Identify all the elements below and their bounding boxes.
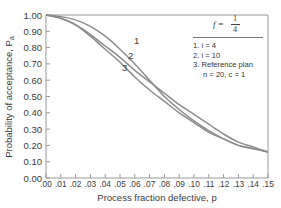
x-tick-label: .01 bbox=[55, 179, 67, 189]
legend-fraction: f = 1 4 bbox=[193, 14, 263, 36]
y-tick-label: 0.30 bbox=[24, 124, 43, 135]
x-axis-label: Process fraction defective, p bbox=[97, 192, 216, 203]
y-tick-label: 0.10 bbox=[24, 156, 43, 167]
x-tick-label: .11 bbox=[203, 179, 214, 189]
legend-divider bbox=[193, 37, 263, 38]
x-tick-label: .00 bbox=[40, 179, 52, 189]
x-tick-label: .03 bbox=[85, 179, 97, 189]
x-tick-label: .09 bbox=[173, 179, 185, 189]
x-tick-label: .08 bbox=[159, 179, 171, 189]
y-tick-label: 0.20 bbox=[24, 140, 43, 151]
y-tick-label: 0.40 bbox=[24, 107, 43, 118]
x-tick-label: .07 bbox=[144, 179, 156, 189]
legend-item-3: 3. Reference plan bbox=[193, 60, 263, 70]
x-tick-label: .04 bbox=[99, 179, 111, 189]
x-tick-label: .12 bbox=[218, 179, 230, 189]
x-tick-label: .10 bbox=[188, 179, 200, 189]
y-tick-label: 0.50 bbox=[24, 91, 43, 102]
legend: f = 1 4 1. i = 4 2. i = 10 3. Reference … bbox=[193, 14, 263, 79]
legend-item-2: 2. i = 10 bbox=[193, 51, 263, 61]
y-axis-label: Probability of acceptance, Pa bbox=[3, 36, 15, 158]
x-tick-label: .02 bbox=[70, 179, 82, 189]
curve-label-1: 1 bbox=[134, 35, 139, 46]
x-tick-label: .13 bbox=[233, 179, 245, 189]
y-tick-label: 0.70 bbox=[24, 58, 43, 69]
curve-label-3: 3 bbox=[122, 62, 127, 73]
y-tick-label: 0.00 bbox=[24, 173, 43, 184]
fraction-denominator: 4 bbox=[233, 25, 237, 35]
x-tick-label: .15 bbox=[262, 179, 274, 189]
y-tick-label: 0.80 bbox=[24, 42, 43, 53]
x-tick-label: .05 bbox=[114, 179, 126, 189]
legend-item-3-params: n = 20, c = 1 bbox=[193, 70, 263, 80]
fraction-label: f = bbox=[213, 20, 224, 30]
legend-item-1: 1. i = 4 bbox=[193, 41, 263, 51]
y-tick-label: 0.90 bbox=[24, 26, 43, 37]
x-axis: .00.01.02.03.04.05.06.07.08.09.10.11.12.… bbox=[40, 174, 274, 189]
x-tick-label: .14 bbox=[247, 179, 259, 189]
x-tick-label: .06 bbox=[129, 179, 141, 189]
curve-label-2: 2 bbox=[128, 50, 133, 61]
y-tick-label: 1.00 bbox=[24, 10, 43, 21]
y-tick-label: 0.60 bbox=[24, 75, 43, 86]
fraction-numerator: 1 bbox=[233, 14, 237, 24]
